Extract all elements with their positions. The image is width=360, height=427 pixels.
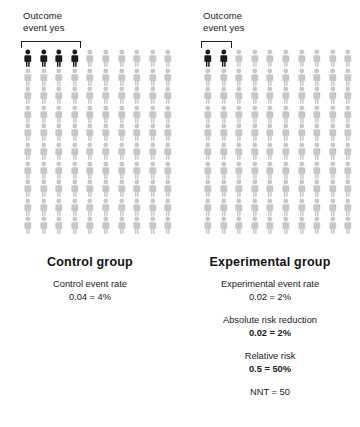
person-icon-no-event [98, 161, 114, 180]
person-icon-no-event [247, 123, 263, 142]
person-icon-no-event [325, 198, 341, 217]
pictogram-grid-experimental [200, 49, 356, 235]
pictogram-grid-control [20, 49, 176, 235]
person-icon-no-event [309, 123, 325, 142]
person-icon-no-event [325, 142, 341, 161]
person-icon-no-event [340, 161, 356, 180]
person-icon-no-event [160, 198, 176, 217]
person-icon-no-event [231, 123, 247, 142]
person-icon-no-event [145, 179, 161, 198]
person-icon-no-event [309, 198, 325, 217]
person-icon-no-event [247, 142, 263, 161]
person-icon-no-event [114, 123, 130, 142]
person-icon-event [216, 49, 232, 68]
person-icon-no-event [20, 123, 36, 142]
control-stat-block: Control event rate0.04 = 4% [0, 278, 180, 303]
person-icon-no-event [160, 68, 176, 87]
person-icon-no-event [114, 68, 130, 87]
person-icon-event [67, 49, 83, 68]
person-icon-no-event [98, 86, 114, 105]
person-icon-no-event [129, 198, 145, 217]
person-icon-no-event [20, 142, 36, 161]
person-icon-no-event [36, 105, 52, 124]
person-icon-no-event [340, 49, 356, 68]
person-icon-no-event [114, 105, 130, 124]
person-icon-no-event [247, 105, 263, 124]
person-icon-no-event [114, 179, 130, 198]
experimental-group-stats: Experimental event rate0.02 = 2%Absolute… [180, 278, 360, 410]
person-icon-no-event [340, 216, 356, 235]
person-icon-no-event [36, 198, 52, 217]
person-icon-no-event [145, 86, 161, 105]
experimental-stat-block: Absolute risk reduction0.02 = 2% [180, 314, 360, 339]
person-icon-no-event [278, 142, 294, 161]
outcome-bracket-experimental [201, 41, 232, 48]
person-icon-no-event [200, 68, 216, 87]
experimental-group-title: Experimental group [180, 255, 360, 269]
person-icon-no-event [216, 179, 232, 198]
person-icon-no-event [145, 105, 161, 124]
person-icon-no-event [160, 161, 176, 180]
person-icon-no-event [67, 216, 83, 235]
person-icon-no-event [67, 198, 83, 217]
person-icon-no-event [247, 198, 263, 217]
person-icon-no-event [98, 68, 114, 87]
person-icon-no-event [98, 198, 114, 217]
person-icon-no-event [129, 142, 145, 161]
person-icon-no-event [129, 105, 145, 124]
person-icon-no-event [325, 68, 341, 87]
person-icon-no-event [200, 161, 216, 180]
experimental-group-panel: Outcome event yes Experimental group Exp… [180, 0, 360, 427]
person-icon-no-event [262, 49, 278, 68]
experimental-stat-block: NNT = 50 [180, 386, 360, 399]
control-stat-value: 0.04 = 4% [0, 291, 180, 304]
person-icon-no-event [216, 105, 232, 124]
person-icon-no-event [160, 179, 176, 198]
person-icon-no-event [294, 49, 310, 68]
person-icon-no-event [294, 123, 310, 142]
person-icon-no-event [82, 216, 98, 235]
person-icon-no-event [114, 49, 130, 68]
experimental-stat-label: NNT = 50 [180, 386, 360, 399]
person-icon-no-event [51, 86, 67, 105]
experimental-stat-label: Experimental event rate [180, 278, 360, 291]
person-icon-no-event [340, 86, 356, 105]
person-icon-no-event [216, 216, 232, 235]
person-icon-no-event [340, 105, 356, 124]
person-icon-no-event [325, 123, 341, 142]
person-icon-no-event [20, 105, 36, 124]
person-icon-no-event [114, 86, 130, 105]
person-icon-no-event [20, 198, 36, 217]
person-icon-no-event [216, 123, 232, 142]
person-icon-no-event [114, 198, 130, 217]
person-icon-no-event [20, 216, 36, 235]
person-icon-no-event [67, 86, 83, 105]
person-icon-no-event [294, 198, 310, 217]
person-icon-no-event [200, 179, 216, 198]
outcome-event-label-control: Outcome event yes [23, 10, 65, 33]
person-icon-no-event [67, 142, 83, 161]
person-icon-no-event [36, 179, 52, 198]
person-icon-no-event [114, 216, 130, 235]
experimental-stat-value: 0.5 = 50% [180, 363, 360, 376]
outcome-bracket-control [21, 41, 81, 48]
person-icon-no-event [20, 68, 36, 87]
person-icon-no-event [51, 123, 67, 142]
person-icon-no-event [36, 86, 52, 105]
person-icon-no-event [36, 161, 52, 180]
person-icon-no-event [294, 105, 310, 124]
person-icon-no-event [36, 123, 52, 142]
person-icon-no-event [309, 161, 325, 180]
person-icon-no-event [231, 161, 247, 180]
person-icon-no-event [340, 179, 356, 198]
person-icon-no-event [82, 198, 98, 217]
person-icon-no-event [309, 179, 325, 198]
person-icon-no-event [294, 142, 310, 161]
person-icon-no-event [247, 86, 263, 105]
person-icon-no-event [247, 49, 263, 68]
person-icon-no-event [98, 216, 114, 235]
person-icon-no-event [200, 86, 216, 105]
person-icon-no-event [82, 179, 98, 198]
person-icon-event [36, 49, 52, 68]
person-icon-no-event [216, 198, 232, 217]
